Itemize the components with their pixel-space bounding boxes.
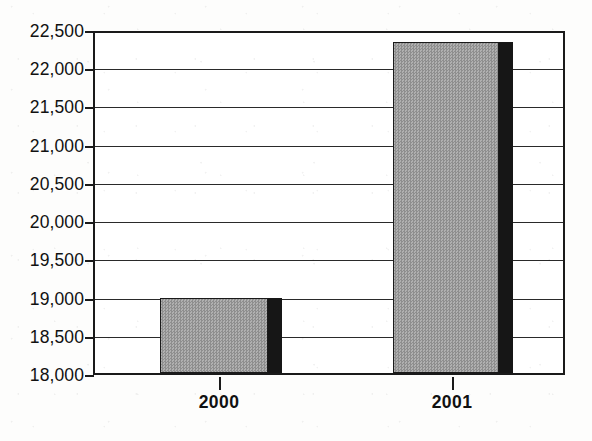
y-tick-mark — [85, 337, 94, 339]
y-tick-label: 21,000 — [4, 135, 84, 156]
y-tick-mark — [85, 260, 94, 262]
x-tick-mark — [219, 377, 221, 390]
y-tick-label: 19,000 — [4, 288, 84, 309]
y-tick-mark — [85, 69, 94, 71]
bar-2001 — [393, 42, 513, 373]
bar-shadow — [499, 42, 513, 373]
x-tick-label-2000: 2000 — [159, 392, 279, 413]
bar-fill — [160, 298, 268, 373]
y-tick-mark — [85, 107, 94, 109]
y-tick-label: 22,500 — [4, 21, 84, 42]
bar-shadow — [268, 298, 282, 373]
y-tick-mark — [85, 146, 94, 148]
y-axis: 22,500 22,000 21,500 21,000 20,500 20,00… — [0, 0, 84, 441]
y-tick-mark — [85, 299, 94, 301]
bar-2000 — [160, 298, 282, 373]
x-tick-mark — [452, 377, 454, 390]
y-tick-mark — [85, 375, 94, 377]
bar-fill — [393, 42, 499, 373]
y-tick-label: 20,000 — [4, 212, 84, 233]
y-tick-label: 18,000 — [4, 365, 84, 386]
plot-area — [93, 31, 565, 375]
y-tick-mark — [85, 184, 94, 186]
y-tick-mark — [85, 31, 94, 33]
y-tick-label: 19,500 — [4, 250, 84, 271]
y-tick-label: 18,500 — [4, 326, 84, 347]
y-tick-label: 21,500 — [4, 97, 84, 118]
y-tick-label: 20,500 — [4, 173, 84, 194]
y-tick-label: 22,000 — [4, 59, 84, 80]
x-tick-label-2001: 2001 — [392, 392, 512, 413]
y-tick-mark — [85, 222, 94, 224]
bar-chart-figure: 22,500 22,000 21,500 21,000 20,500 20,00… — [0, 0, 592, 441]
